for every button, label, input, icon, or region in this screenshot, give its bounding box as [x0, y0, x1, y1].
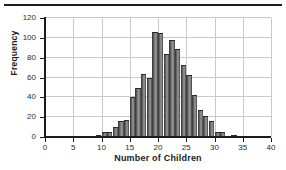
histogram-bar	[118, 121, 123, 137]
gridline-vertical	[215, 18, 216, 137]
histogram-bar	[192, 95, 197, 137]
x-tick-mark	[215, 138, 216, 142]
x-tick-label: 0	[30, 143, 60, 153]
histogram-bar	[141, 74, 146, 137]
histogram-bar	[169, 40, 174, 137]
x-tick-mark	[130, 138, 131, 142]
y-tick-mark	[40, 117, 44, 118]
x-tick-mark	[73, 138, 74, 142]
gridline-vertical	[73, 18, 74, 137]
y-axis-line	[44, 17, 46, 138]
y-tick-mark	[40, 18, 44, 19]
x-tick-mark	[45, 138, 46, 142]
y-axis-title: Frequency	[9, 13, 19, 93]
y-tick-mark	[40, 97, 44, 98]
x-tick-label: 10	[87, 143, 117, 153]
x-tick-label: 25	[171, 143, 201, 153]
x-tick-label: 35	[228, 143, 258, 153]
histogram-bar	[203, 116, 208, 137]
x-tick-mark	[243, 138, 244, 142]
x-tick-mark	[102, 138, 103, 142]
y-tick-label: 40	[0, 93, 36, 101]
y-tick-mark	[40, 58, 44, 59]
histogram-figure: 0510152025303540 020406080100120 Number …	[0, 0, 286, 170]
x-axis-title: Number of Children	[45, 153, 271, 163]
gridline-vertical	[271, 18, 272, 137]
histogram-bar	[175, 49, 180, 137]
x-tick-mark	[186, 138, 187, 142]
x-tick-label: 30	[200, 143, 230, 153]
x-tick-label: 20	[143, 143, 173, 153]
histogram-bar	[147, 78, 152, 138]
y-tick-label: 0	[0, 133, 36, 141]
plot-area	[45, 18, 271, 137]
y-tick-mark	[40, 137, 44, 138]
histogram-bar	[130, 97, 135, 137]
histogram-bar	[181, 65, 186, 137]
top-rule-divider	[4, 4, 282, 6]
x-tick-mark	[271, 138, 272, 142]
y-tick-mark	[40, 38, 44, 39]
histogram-bar	[198, 110, 203, 137]
histogram-bar	[158, 33, 163, 137]
histogram-bar	[186, 75, 191, 137]
x-tick-label: 5	[58, 143, 88, 153]
x-tick-mark	[158, 138, 159, 142]
histogram-bar	[135, 88, 140, 137]
y-tick-mark	[40, 78, 44, 79]
x-tick-label: 40	[256, 143, 286, 153]
gridline-vertical	[102, 18, 103, 137]
gridline-vertical	[243, 18, 244, 137]
histogram-bar	[152, 32, 157, 137]
y-tick-label: 20	[0, 113, 36, 121]
histogram-bar	[124, 120, 129, 137]
histogram-bar	[209, 121, 214, 137]
x-tick-label: 15	[115, 143, 145, 153]
histogram-bar	[164, 54, 169, 137]
